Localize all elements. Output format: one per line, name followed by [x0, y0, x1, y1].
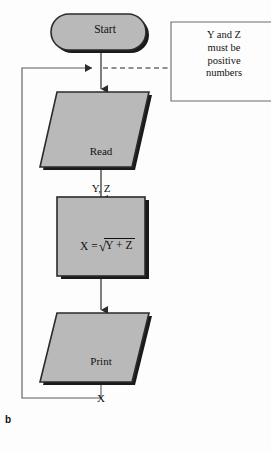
node-print-shape — [40, 313, 149, 382]
node-process-shape — [57, 197, 145, 276]
node-start-shape — [51, 14, 146, 50]
annotation-text: Y and Z must be positive numbers — [186, 29, 262, 80]
annotation-line-1: Y and Z — [186, 29, 262, 42]
node-read-shape — [40, 92, 149, 167]
flowchart-figure: Start Read Y, Z X =√Y + Z Print X Y and … — [0, 0, 271, 452]
annotation-line-4: numbers — [186, 67, 262, 80]
annotation-line-2: must be — [186, 42, 262, 55]
panel-letter: b — [5, 414, 11, 425]
node-shape-layer — [40, 14, 149, 382]
annotation-line-3: positive — [186, 55, 262, 68]
